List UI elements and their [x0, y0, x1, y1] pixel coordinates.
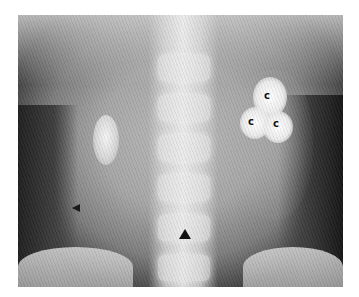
calculus-label: c: [248, 117, 254, 127]
calculus-label: c: [264, 91, 270, 101]
right-iliac-crest: [18, 247, 133, 287]
vertebra: [158, 135, 210, 161]
xray-image: [18, 15, 343, 287]
arrowhead-up-icon: [179, 229, 191, 239]
vertebra: [158, 55, 210, 81]
arrowhead-left-icon: [72, 204, 80, 212]
vertebra: [158, 175, 210, 201]
vertebra: [158, 95, 210, 121]
calculus-label: c: [273, 119, 279, 129]
right-kidney-opacity: [93, 115, 119, 165]
left-iliac-crest: [243, 247, 343, 287]
vertebra: [158, 255, 210, 281]
